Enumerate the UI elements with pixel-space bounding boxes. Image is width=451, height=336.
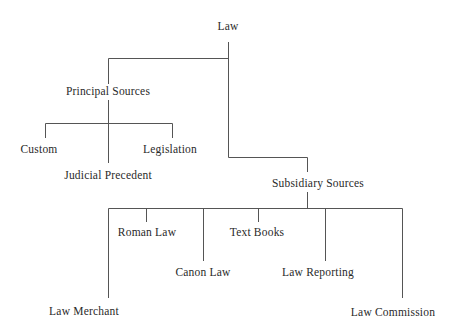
node-principal-sources: Principal Sources <box>66 85 150 98</box>
node-canon-law: Canon Law <box>175 266 230 279</box>
node-law: Law <box>217 20 238 33</box>
node-custom: Custom <box>21 143 58 156</box>
node-law-commission: Law Commission <box>351 306 435 319</box>
node-legislation: Legislation <box>143 143 197 156</box>
connector-lines <box>0 0 451 336</box>
node-law-reporting: Law Reporting <box>282 266 354 279</box>
node-text-books: Text Books <box>230 226 285 239</box>
law-sources-tree-diagram: Law Principal Sources Custom Legislation… <box>0 0 451 336</box>
node-judicial-precedent: Judicial Precedent <box>64 169 152 182</box>
node-law-merchant: Law Merchant <box>49 305 119 318</box>
node-roman-law: Roman Law <box>118 226 176 239</box>
node-subsidiary-sources: Subsidiary Sources <box>272 177 364 190</box>
